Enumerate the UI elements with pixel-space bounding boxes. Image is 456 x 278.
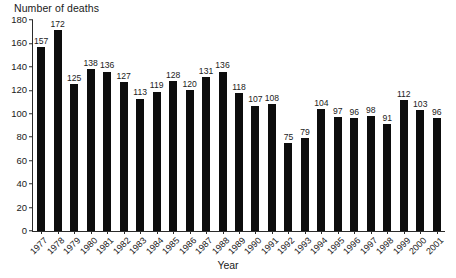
y-axis-tick-label: 140 — [11, 62, 29, 72]
y-axis-tick: 80 — [16, 132, 33, 142]
bar-rect[interactable] — [367, 116, 375, 231]
y-axis-tick-mark — [29, 207, 33, 208]
y-axis-tick: 120 — [11, 86, 33, 96]
bar-rect[interactable] — [334, 117, 342, 231]
bar-rect[interactable] — [54, 30, 62, 231]
y-axis-tick: 60 — [16, 156, 33, 166]
y-axis-tick-mark — [29, 66, 33, 67]
bar-rect[interactable] — [400, 100, 408, 231]
bar[interactable]: 128 — [169, 20, 177, 231]
bar-rect[interactable] — [284, 143, 292, 231]
y-axis-tick: 140 — [11, 62, 33, 72]
bar-value-label: 118 — [232, 83, 246, 92]
y-axis-tick-label: 100 — [11, 109, 29, 119]
bar-rect[interactable] — [219, 72, 227, 231]
y-axis-tick-mark — [29, 90, 33, 91]
bar[interactable]: 136 — [103, 20, 111, 231]
bar[interactable]: 103 — [416, 20, 424, 231]
bar-rect[interactable] — [251, 106, 259, 231]
x-axis-tick-mark — [305, 231, 306, 234]
bar-rect[interactable] — [235, 93, 243, 231]
bar[interactable]: 119 — [153, 20, 161, 231]
bar-rect[interactable] — [70, 84, 78, 231]
bar[interactable]: 125 — [70, 20, 78, 231]
bar-rect[interactable] — [301, 138, 309, 231]
x-axis-tick-mark — [288, 231, 289, 234]
bar-value-label: 113 — [133, 88, 147, 97]
y-axis-tick-label: 0 — [22, 226, 29, 236]
bar-rect[interactable] — [268, 104, 276, 231]
x-axis-title: Year — [0, 259, 456, 271]
bar[interactable]: 136 — [219, 20, 227, 231]
bar[interactable]: 112 — [400, 20, 408, 231]
bar[interactable]: 138 — [87, 20, 95, 231]
x-axis-tick-mark — [223, 231, 224, 234]
bar[interactable]: 107 — [251, 20, 259, 231]
y-axis-tick-mark — [29, 137, 33, 138]
bar[interactable]: 79 — [301, 20, 309, 231]
bar-value-label: 104 — [314, 99, 328, 108]
bar-value-label: 96 — [432, 108, 442, 117]
y-axis-tick-label: 120 — [11, 86, 29, 96]
bar-rect[interactable] — [136, 99, 144, 231]
bar-rect[interactable] — [186, 90, 194, 231]
bar-rect[interactable] — [202, 77, 210, 231]
bar-value-label: 136 — [215, 61, 229, 70]
x-axis-tick-mark — [157, 231, 158, 234]
bar[interactable]: 108 — [268, 20, 276, 231]
bar-rect[interactable] — [37, 47, 45, 231]
bar-value-label: 172 — [51, 20, 65, 29]
bar-value-label: 103 — [413, 100, 427, 109]
bar-value-label: 96 — [350, 108, 360, 117]
bar[interactable]: 172 — [54, 20, 62, 231]
bar-value-label: 127 — [116, 72, 130, 81]
bar-value-label: 107 — [248, 95, 262, 104]
x-axis-tick-mark — [124, 231, 125, 234]
y-axis-tick: 40 — [16, 179, 33, 189]
bar-value-label: 125 — [67, 74, 81, 83]
bar-rect[interactable] — [169, 81, 177, 231]
x-axis-tick-mark — [91, 231, 92, 234]
x-axis-tick-mark — [255, 231, 256, 234]
bar[interactable]: 96 — [433, 20, 441, 231]
bar[interactable]: 131 — [202, 20, 210, 231]
y-axis-tick-label: 160 — [11, 39, 29, 49]
bar-rect[interactable] — [103, 72, 111, 231]
y-axis-tick: 0 — [22, 226, 33, 236]
bar-rect[interactable] — [350, 118, 358, 231]
bar[interactable]: 113 — [136, 20, 144, 231]
bar[interactable]: 97 — [334, 20, 342, 231]
bar[interactable]: 157 — [37, 20, 45, 231]
bar-value-label: 79 — [300, 128, 310, 137]
y-axis-tick-mark — [29, 184, 33, 185]
x-axis-tick-mark — [321, 231, 322, 234]
bar-rect[interactable] — [383, 124, 391, 231]
y-axis-tick: 160 — [11, 39, 33, 49]
x-axis-tick-mark — [58, 231, 59, 234]
bar[interactable]: 118 — [235, 20, 243, 231]
bar[interactable]: 127 — [120, 20, 128, 231]
bar[interactable]: 98 — [367, 20, 375, 231]
bar-chart: Number of deaths 02040608010012014016018… — [0, 0, 456, 278]
bar-value-label: 131 — [199, 67, 213, 76]
bar-rect[interactable] — [317, 109, 325, 231]
bar-rect[interactable] — [433, 118, 441, 231]
bar[interactable]: 120 — [186, 20, 194, 231]
bar-rect[interactable] — [120, 82, 128, 231]
y-axis-tick: 20 — [16, 203, 33, 213]
x-axis-tick-mark — [354, 231, 355, 234]
x-axis-tick-mark — [190, 231, 191, 234]
bar-rect[interactable] — [153, 92, 161, 231]
bar[interactable]: 96 — [350, 20, 358, 231]
x-axis-tick-mark — [239, 231, 240, 234]
bar[interactable]: 91 — [383, 20, 391, 231]
y-axis-tick-label: 80 — [16, 132, 29, 142]
y-axis-tick-mark — [29, 113, 33, 114]
bar[interactable]: 75 — [284, 20, 292, 231]
bar-rect[interactable] — [87, 69, 95, 231]
bar[interactable]: 104 — [317, 20, 325, 231]
bar-value-label: 75 — [284, 133, 294, 142]
x-axis-tick-mark — [420, 231, 421, 234]
bar-rect[interactable] — [416, 110, 424, 231]
bar-value-label: 136 — [100, 61, 114, 70]
